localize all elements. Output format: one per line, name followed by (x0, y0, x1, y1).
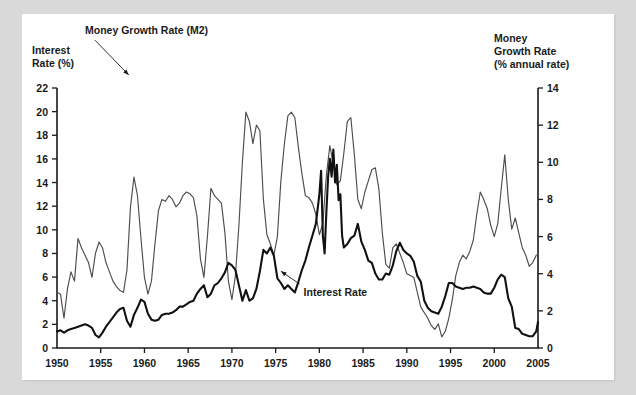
left-tick-label: 2 (42, 318, 48, 330)
left-tick-label: 6 (42, 271, 48, 283)
left-tick-label: 22 (36, 82, 48, 94)
left-axis-ticks: 0246810121416182022 (36, 82, 57, 354)
chart-svg: Interest Rate (%) Money Growth Rate (% a… (22, 14, 614, 380)
right-tick-label: 14 (547, 82, 559, 94)
left-axis-title: Interest Rate (%) (32, 44, 74, 69)
left-tick-label: 18 (36, 129, 48, 141)
chart-axes (57, 88, 538, 348)
left-axis-title-line2: Rate (%) (32, 57, 74, 69)
bottom-tick-label: 1995 (439, 357, 463, 369)
right-axis-title-line3: (% annual rate) (494, 58, 569, 70)
series-lines (57, 112, 538, 337)
left-tick-label: 12 (36, 200, 48, 212)
right-tick-label: 12 (547, 119, 559, 131)
series-line-money-growth (57, 112, 536, 337)
annotation-leader (95, 40, 129, 75)
series-line-interest-rate (57, 149, 538, 337)
right-axis-title: Money Growth Rate (% annual rate) (494, 32, 569, 70)
annotation-label: Interest Rate (304, 286, 368, 298)
bottom-axis-ticks: 1950195519601965197019751980198519901995… (45, 348, 550, 369)
bottom-tick-label: 1985 (351, 357, 375, 369)
left-tick-label: 8 (42, 247, 48, 259)
interest-rate-money-growth-chart: Interest Rate (%) Money Growth Rate (% a… (22, 14, 614, 380)
bottom-tick-label: 1950 (45, 357, 69, 369)
left-axis-title-line1: Interest (32, 44, 70, 56)
bottom-tick-label: 1990 (395, 357, 419, 369)
bottom-tick-label: 2005 (526, 357, 550, 369)
bottom-tick-label: 1970 (220, 357, 244, 369)
right-tick-label: 10 (547, 156, 559, 168)
bottom-tick-label: 1965 (177, 357, 201, 369)
right-axis-ticks: 02468101214 (538, 82, 559, 354)
left-tick-label: 10 (36, 224, 48, 236)
screenshot-frame: Interest Rate (%) Money Growth Rate (% a… (0, 0, 636, 395)
bottom-tick-label: 2000 (483, 357, 507, 369)
chart-panel: Interest Rate (%) Money Growth Rate (% a… (22, 14, 614, 380)
left-tick-label: 16 (36, 153, 48, 165)
right-axis-title-line2: Growth Rate (494, 45, 557, 57)
right-tick-label: 4 (547, 268, 553, 280)
bottom-tick-label: 1975 (264, 357, 288, 369)
right-tick-label: 2 (547, 305, 553, 317)
right-tick-label: 8 (547, 193, 553, 205)
right-tick-label: 6 (547, 231, 553, 243)
left-tick-label: 14 (36, 177, 48, 189)
right-tick-label: 0 (547, 342, 553, 354)
annotation-arrowhead (281, 271, 287, 276)
left-tick-label: 4 (42, 295, 48, 307)
right-axis-title-line1: Money (494, 32, 527, 44)
left-tick-label: 0 (42, 342, 48, 354)
bottom-tick-label: 1960 (133, 357, 157, 369)
bottom-tick-label: 1955 (89, 357, 113, 369)
annotation-label: Money Growth Rate (M2) (85, 24, 208, 36)
left-tick-label: 20 (36, 106, 48, 118)
bottom-tick-label: 1980 (308, 357, 332, 369)
axis-frame (57, 88, 538, 348)
